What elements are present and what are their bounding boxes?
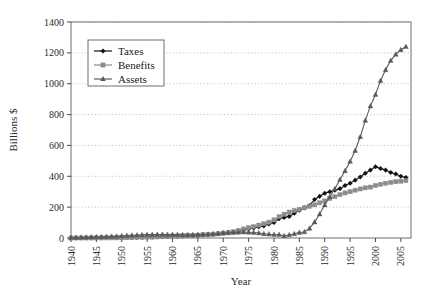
x-axis-title: Year (231, 275, 252, 287)
legend-label-assets: Assets (118, 73, 147, 85)
y-tick-label: 400 (49, 171, 64, 182)
legend-label-benefits: Benefits (118, 59, 155, 71)
y-tick-label: 0 (59, 233, 64, 244)
y-tick-label: 800 (49, 109, 64, 120)
x-tick-label: 2000 (370, 246, 381, 266)
legend-label-taxes: Taxes (118, 45, 144, 57)
x-tick-label: 1990 (319, 246, 330, 266)
y-axis-label: Billions $ (7, 108, 19, 152)
y-tick-label: 200 (49, 202, 64, 213)
x-axis-label: Year (231, 275, 252, 287)
chart-legend: TaxesBenefitsAssets (88, 40, 164, 86)
x-tick-label: 1940 (66, 246, 77, 266)
x-tick-label: 1980 (269, 246, 280, 266)
y-axis-title: Billions $ (7, 108, 19, 152)
x-tick-label: 2005 (395, 246, 406, 266)
y-tick-label: 1200 (44, 47, 64, 58)
x-tick-label: 1950 (116, 246, 127, 266)
x-tick-label: 1995 (345, 246, 356, 266)
x-tick-label: 1985 (294, 246, 305, 266)
x-axis-ticks: 1940194519501955196019651970197519801985… (66, 238, 407, 266)
y-axis-ticks: 0200400600800100012001400 (44, 17, 71, 244)
x-tick-label: 1955 (142, 246, 153, 266)
line-chart: 0200400600800100012001400 19401945195019… (0, 0, 432, 298)
x-tick-label: 1945 (91, 246, 102, 266)
x-tick-label: 1960 (167, 246, 178, 266)
y-tick-label: 1000 (44, 78, 64, 89)
x-tick-label: 1965 (192, 246, 203, 266)
y-tick-label: 600 (49, 140, 64, 151)
x-tick-label: 1975 (243, 246, 254, 266)
y-tick-label: 1400 (44, 17, 64, 28)
x-tick-label: 1970 (218, 246, 229, 266)
chart-container: 0200400600800100012001400 19401945195019… (0, 0, 432, 298)
